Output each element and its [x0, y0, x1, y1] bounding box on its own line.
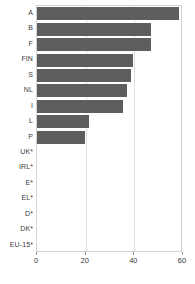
x-tick-label-40: 40	[118, 256, 148, 265]
x-tick-label-0: 0	[21, 256, 51, 265]
plot-area	[36, 5, 182, 252]
y-axis-label-elstar: EL*	[0, 190, 33, 205]
bar-chart: ABFFINSNLILPUK*IRL*E*EL*D*DK*EU-15* 0204…	[0, 0, 195, 284]
y-axis-label-b: B	[0, 20, 33, 35]
y-axis-label-fin: FIN	[0, 51, 33, 66]
bar-row	[37, 99, 123, 114]
y-axis-category-labels: ABFFINSNLILPUK*IRL*E*EL*D*DK*EU-15*	[0, 5, 33, 252]
x-tick-60	[182, 252, 183, 255]
bar-row	[37, 6, 179, 21]
y-axis-label-p: P	[0, 129, 33, 144]
y-axis-label-s: S	[0, 67, 33, 82]
bar-s	[37, 69, 131, 82]
y-axis-label-f: F	[0, 36, 33, 51]
bar-i	[37, 100, 123, 113]
x-tick-20	[85, 252, 86, 255]
bar-row	[37, 21, 151, 36]
y-axis-label-irlstar: IRL*	[0, 159, 33, 174]
bar-row	[37, 37, 151, 52]
bars	[37, 6, 181, 251]
bar-a	[37, 7, 179, 20]
y-axis-label-nl: NL	[0, 82, 33, 97]
bar-row	[37, 114, 89, 129]
y-axis-label-dstar: D*	[0, 206, 33, 221]
y-axis-label-dkstar: DK*	[0, 221, 33, 236]
bar-row	[37, 68, 131, 83]
bar-row	[37, 83, 127, 98]
x-tick-0	[36, 252, 37, 255]
bar-fin	[37, 54, 133, 67]
bar-b	[37, 23, 151, 36]
y-axis-label-ukstar: UK*	[0, 144, 33, 159]
bar-f	[37, 38, 151, 51]
bar-row	[37, 130, 85, 145]
bar-nl	[37, 84, 127, 97]
y-axis-label-eu-15star: EU-15*	[0, 237, 33, 252]
x-tick-label-60: 60	[167, 256, 195, 265]
y-axis-label-a: A	[0, 5, 33, 20]
x-axis: 0204060	[36, 252, 182, 276]
x-tick-40	[133, 252, 134, 255]
y-axis-label-l: L	[0, 113, 33, 128]
y-axis-label-estar: E*	[0, 175, 33, 190]
bar-row	[37, 52, 133, 67]
x-tick-label-20: 20	[70, 256, 100, 265]
bar-p	[37, 131, 85, 144]
bar-l	[37, 115, 89, 128]
y-axis-label-i: I	[0, 98, 33, 113]
